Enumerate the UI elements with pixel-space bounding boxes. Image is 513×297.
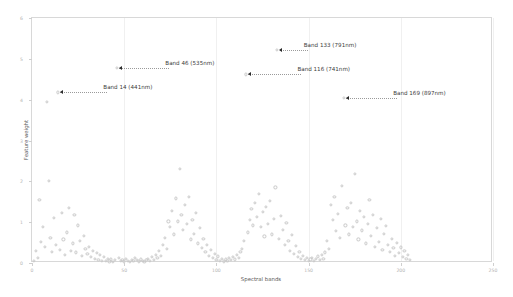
scatter-plot-figure: 050100150200250 0123456 Band 14 (441nm)B… xyxy=(0,0,513,297)
data-point xyxy=(370,234,373,237)
data-point xyxy=(196,242,199,245)
data-point xyxy=(241,247,244,250)
x-tick xyxy=(124,263,125,266)
data-point xyxy=(161,243,164,246)
data-point xyxy=(169,225,172,228)
data-point xyxy=(163,236,166,239)
data-point xyxy=(388,250,391,253)
data-point xyxy=(113,259,116,262)
data-point xyxy=(396,241,399,244)
x-tick xyxy=(309,263,310,266)
data-point xyxy=(252,224,255,227)
annotation-leader-line xyxy=(119,68,169,69)
data-point xyxy=(327,247,330,250)
data-point xyxy=(340,185,343,188)
data-point xyxy=(209,248,212,251)
data-point xyxy=(183,203,186,206)
data-point xyxy=(292,252,295,255)
y-tick-label: 2 xyxy=(20,179,23,184)
data-point xyxy=(348,233,351,236)
data-point xyxy=(337,212,340,215)
x-tick-label: 250 xyxy=(489,268,498,273)
x-tick xyxy=(401,263,402,266)
y-tick-label: 5 xyxy=(20,56,23,61)
data-point xyxy=(167,220,170,223)
data-point xyxy=(58,248,61,251)
arrowhead-icon xyxy=(279,48,282,52)
data-point xyxy=(266,223,269,226)
annotation-label: Band 14 (441nm) xyxy=(103,84,152,90)
x-tick xyxy=(216,263,217,266)
y-tick-label: 0 xyxy=(20,261,23,266)
x-tick-label: 50 xyxy=(121,268,127,273)
data-point xyxy=(355,220,358,223)
data-point xyxy=(91,249,94,252)
data-point xyxy=(384,225,387,228)
data-point xyxy=(362,216,365,219)
data-point xyxy=(204,250,207,253)
data-point xyxy=(198,227,201,230)
data-point xyxy=(322,257,325,260)
data-point xyxy=(278,237,281,240)
data-point xyxy=(324,251,327,254)
data-point xyxy=(381,248,384,251)
data-point xyxy=(47,179,50,182)
data-point xyxy=(351,225,354,228)
data-point xyxy=(386,243,389,246)
data-point xyxy=(77,224,80,227)
data-point xyxy=(331,219,334,222)
data-point xyxy=(88,245,91,248)
annotation-label: Band 46 (535nm) xyxy=(165,60,214,66)
data-point xyxy=(34,249,37,252)
data-point xyxy=(274,186,277,189)
data-point xyxy=(185,223,188,226)
x-tick-label: 100 xyxy=(212,268,221,273)
arrowhead-icon xyxy=(119,66,122,70)
gridline xyxy=(124,18,125,261)
annotation-label: Band 169 (897nm) xyxy=(393,90,446,96)
y-tick xyxy=(29,59,32,60)
data-point xyxy=(257,192,260,195)
y-tick xyxy=(29,100,32,101)
data-point xyxy=(359,209,362,212)
data-point xyxy=(159,254,162,257)
plot-area: 050100150200250 0123456 Band 14 (441nm)B… xyxy=(31,17,492,262)
data-point xyxy=(289,249,292,252)
x-tick xyxy=(32,263,33,266)
arrowhead-icon xyxy=(346,96,349,100)
data-point xyxy=(65,231,68,234)
data-point xyxy=(75,251,78,254)
data-point xyxy=(294,244,297,247)
data-point xyxy=(202,237,205,240)
data-point xyxy=(187,195,190,198)
data-point xyxy=(180,213,183,216)
y-axis-label: Feature weight xyxy=(23,120,29,160)
data-point xyxy=(67,206,70,209)
data-point xyxy=(377,240,380,243)
data-point xyxy=(200,247,203,250)
data-point xyxy=(335,230,338,233)
data-point xyxy=(156,257,159,260)
data-point xyxy=(349,201,352,204)
data-point xyxy=(233,258,236,261)
data-point xyxy=(375,227,378,230)
data-point xyxy=(357,238,360,241)
data-point xyxy=(86,252,89,255)
data-point xyxy=(364,242,367,245)
data-point xyxy=(248,219,251,222)
y-tick xyxy=(29,263,32,264)
data-point xyxy=(158,249,161,252)
data-point xyxy=(379,217,382,220)
gridline xyxy=(401,18,402,261)
data-point xyxy=(283,243,286,246)
data-point xyxy=(403,249,406,252)
x-tick xyxy=(493,263,494,266)
data-point xyxy=(333,195,336,198)
y-tick xyxy=(29,222,32,223)
data-point xyxy=(360,229,363,232)
data-point xyxy=(54,243,57,246)
annotation-leader-line xyxy=(248,74,301,75)
data-point xyxy=(353,172,356,175)
data-point xyxy=(270,233,273,236)
data-point xyxy=(78,239,81,242)
